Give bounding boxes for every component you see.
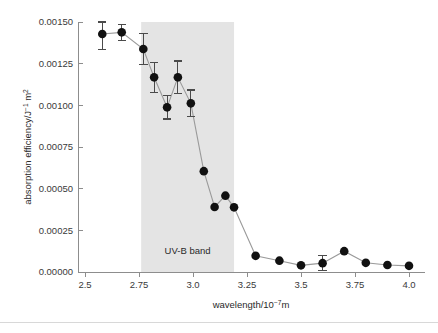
data-point bbox=[98, 30, 107, 39]
y-tick-label: 0.00050 bbox=[39, 183, 73, 194]
data-point bbox=[230, 203, 239, 212]
figure-root: 0.000000.000250.000500.000750.001000.001… bbox=[0, 0, 438, 333]
x-tick-label: 3.25 bbox=[238, 279, 257, 290]
data-point bbox=[340, 247, 349, 256]
data-point bbox=[275, 256, 284, 265]
x-tick-label: 4.0 bbox=[402, 279, 415, 290]
absorption-efficiency-chart: 0.000000.000250.000500.000750.001000.001… bbox=[0, 0, 438, 333]
data-point bbox=[163, 103, 172, 112]
data-point bbox=[139, 45, 148, 54]
data-point bbox=[210, 203, 219, 212]
data-point bbox=[187, 99, 196, 108]
y-tick-label: 0.00000 bbox=[39, 266, 73, 277]
y-tick-label: 0.00100 bbox=[39, 100, 73, 111]
data-point bbox=[362, 259, 371, 268]
x-tick-label: 3.0 bbox=[186, 279, 199, 290]
data-point bbox=[251, 252, 260, 261]
uvb-band-rect bbox=[141, 22, 234, 272]
y-tick-label: 0.00125 bbox=[39, 58, 73, 69]
data-point bbox=[221, 191, 230, 200]
data-point bbox=[117, 28, 126, 37]
y-tick-label: 0.00025 bbox=[39, 225, 73, 236]
uvb-band-region bbox=[141, 22, 234, 272]
x-tick-label: 3.5 bbox=[294, 279, 307, 290]
data-point bbox=[405, 262, 414, 271]
x-tick-label: 2.5 bbox=[78, 279, 91, 290]
x-tick-label: 3.75 bbox=[346, 279, 365, 290]
bottom-divider bbox=[0, 322, 438, 323]
uvb-band-annotation: UV-B band bbox=[165, 245, 211, 256]
data-point bbox=[150, 73, 159, 82]
data-point bbox=[200, 167, 209, 176]
x-tick-label: 2.75 bbox=[130, 279, 149, 290]
data-point bbox=[297, 261, 306, 270]
uvb-band-label: UV-B band bbox=[165, 245, 211, 256]
data-point bbox=[174, 73, 183, 82]
y-tick-label: 0.00150 bbox=[39, 16, 73, 27]
data-point bbox=[383, 261, 392, 270]
data-point bbox=[318, 259, 327, 268]
y-tick-label: 0.00075 bbox=[39, 141, 73, 152]
